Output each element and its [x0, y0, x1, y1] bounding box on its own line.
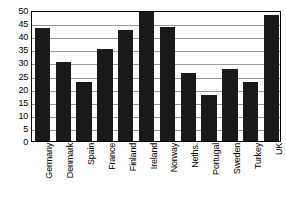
bar [160, 27, 175, 141]
bar [97, 49, 112, 141]
y-axis: 50454035302520151050 [0, 11, 28, 142]
bar [264, 15, 279, 141]
bar [222, 69, 237, 141]
bar [56, 62, 71, 141]
x-tick-label: Germany [45, 143, 54, 179]
x-tick-label: Portugal [212, 143, 221, 175]
x-tick-label: Sweden [233, 143, 242, 174]
y-tick-label: 25 [2, 72, 28, 81]
x-tick-label: Denmark [66, 143, 75, 178]
x-tick-label: UK [275, 143, 284, 155]
bar-chart: 50454035302520151050 GermanyDenmarkSpain… [0, 0, 286, 204]
x-tick-label: Norway [170, 143, 179, 172]
x-tick-label: Turkey [254, 143, 263, 169]
y-tick-label: 15 [2, 98, 28, 107]
bars-group [32, 12, 280, 141]
x-tick-label: Spain [87, 143, 96, 165]
y-tick-label: 35 [2, 46, 28, 55]
x-tick-label: France [108, 143, 117, 170]
bar [201, 95, 216, 141]
bar [76, 82, 91, 141]
bar [243, 82, 258, 141]
bar [118, 30, 133, 141]
y-tick-label: 30 [2, 59, 28, 68]
x-axis: GermanyDenmarkSpainFranceFinlandIrelandN… [31, 143, 281, 204]
y-tick-label: 40 [2, 33, 28, 42]
bar [181, 73, 196, 141]
y-tick-label: 5 [2, 124, 28, 133]
bar [35, 28, 50, 141]
bar [139, 11, 154, 141]
y-tick-label: 0 [2, 138, 28, 147]
y-tick-label: 50 [2, 7, 28, 16]
x-tick-label: Neths. [191, 143, 200, 168]
y-tick-label: 45 [2, 20, 28, 29]
y-tick-label: 20 [2, 85, 28, 94]
x-tick-label: Finland [129, 143, 138, 171]
plot-area [31, 11, 281, 142]
y-tick-label: 10 [2, 111, 28, 120]
x-tick-label: Ireland [150, 143, 159, 169]
